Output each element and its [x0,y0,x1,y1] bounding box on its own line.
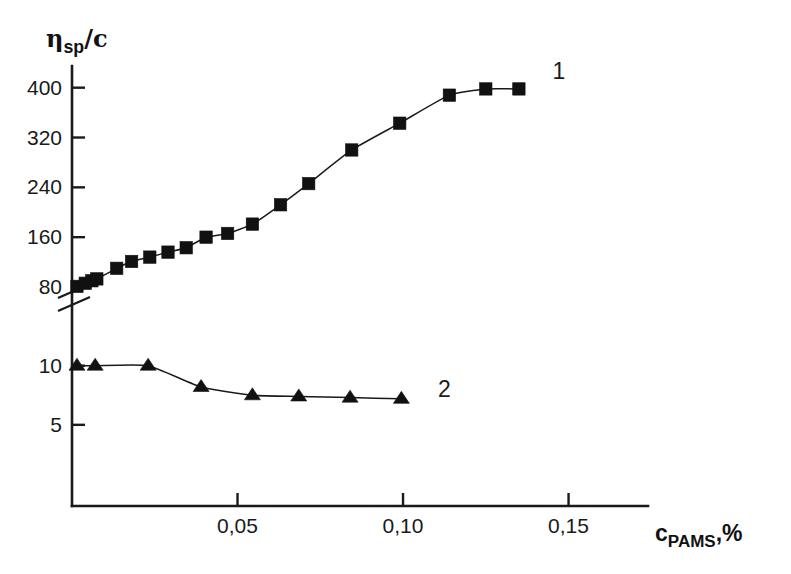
data-point [91,273,103,285]
data-point [200,231,212,243]
data-point [140,358,156,370]
data-point [221,227,233,239]
x-axis-title: cPAMS,% [655,520,743,552]
x-tick-label-0,10: 0,10 [383,514,424,537]
y-axis-title-suffix: /c [84,24,107,53]
data-point [244,388,260,400]
y-tick-label-10: 10 [39,354,62,377]
x-axis-title-symbol: c [655,520,668,546]
series-label-1: 1 [553,58,566,84]
y-tick-label-160: 160 [27,225,62,248]
y-axis-title-symbol: η [46,24,63,53]
axis-break-slash-lower [58,297,90,311]
chart-canvas: 80160240320400510 0,050,100,15 12 [0,0,791,574]
data-series [69,83,525,404]
y-tick-label-5: 5 [50,413,62,436]
y-tick-label-240: 240 [27,175,62,198]
series-line-1 [77,89,519,287]
axes [58,66,648,506]
data-point [180,242,192,254]
y-tick-label-80: 80 [39,275,62,298]
data-point [342,390,358,402]
data-point [125,255,137,267]
x-tick-label-0,15: 0,15 [548,514,589,537]
chart-figure: 80160240320400510 0,050,100,15 12 ηsp/c … [0,0,791,574]
series-label-2: 2 [438,376,451,402]
data-point [346,144,358,156]
series-2 [69,358,409,403]
x-axis-title-subscript: PAMS [668,532,716,551]
data-point [513,83,525,95]
y-axis-ticks: 80160240320400510 [27,76,85,436]
y-tick-label-400: 400 [27,76,62,99]
x-tick-label-0,05: 0,05 [217,514,258,537]
y-tick-label-320: 320 [27,126,62,149]
data-point [302,177,314,189]
data-point [246,218,258,230]
data-point [162,246,174,258]
x-axis-ticks: 0,050,100,15 [217,493,589,537]
data-point [110,262,122,274]
y-axis-title: ηsp/c [46,24,108,58]
data-point [274,199,286,211]
y-axis-title-subscript: sp [63,37,84,57]
series-1 [71,83,525,293]
data-point [393,391,409,403]
data-point [443,89,455,101]
data-point [480,83,492,95]
x-axis-title-suffix: ,% [716,520,743,546]
data-point [291,389,307,401]
data-point [144,251,156,263]
data-point [87,358,103,370]
data-point [394,117,406,129]
series-labels: 12 [438,58,565,402]
